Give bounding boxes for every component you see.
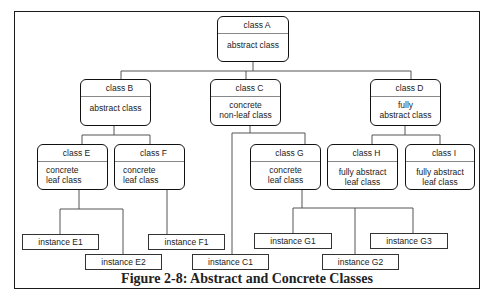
class-d-box: class D fully abstract class <box>370 79 441 126</box>
class-i-box: class I fully abstract leaf class <box>405 144 475 190</box>
class-i-name: class I <box>406 145 474 162</box>
class-c-desc: concrete non-leaf class <box>211 97 280 120</box>
instance-c1-box: instance C1 <box>192 254 269 270</box>
instance-f1-box: instance F1 <box>148 234 225 250</box>
instance-e1-box: instance E1 <box>22 234 99 250</box>
class-f-desc: concrete leaf class <box>115 162 184 185</box>
class-c-box: class C concrete non-leaf class <box>210 79 281 126</box>
class-g-desc: concrete leaf class <box>251 162 320 185</box>
class-h-desc: fully abstract leaf class <box>328 162 397 187</box>
class-f-box: class F concrete leaf class <box>114 144 185 190</box>
class-g-name: class G <box>251 145 320 162</box>
class-e-box: class E concrete leaf class <box>37 144 108 190</box>
class-i-desc: fully abstract leaf class <box>406 162 474 187</box>
class-f-name: class F <box>115 145 184 162</box>
class-d-desc: fully abstract class <box>371 97 440 120</box>
class-h-name: class H <box>328 145 397 162</box>
class-a-box: class A abstract class <box>217 16 289 62</box>
class-hierarchy-diagram: class A abstract class class B abstract … <box>0 0 496 304</box>
class-c-name: class C <box>211 80 280 97</box>
class-b-name: class B <box>81 80 150 97</box>
class-b-box: class B abstract class <box>80 79 151 126</box>
figure-caption: Figure 2-8: Abstract and Concrete Classe… <box>14 271 480 287</box>
class-b-desc: abstract class <box>81 97 150 114</box>
class-e-desc: concrete leaf class <box>38 162 107 185</box>
class-a-desc: abstract class <box>218 34 288 51</box>
class-g-box: class G concrete leaf class <box>250 144 321 190</box>
class-a-name: class A <box>218 17 288 34</box>
class-h-box: class H fully abstract leaf class <box>327 144 398 190</box>
instance-g1-box: instance G1 <box>254 233 332 249</box>
instance-g3-box: instance G3 <box>370 233 448 249</box>
class-e-name: class E <box>38 145 107 162</box>
class-d-name: class D <box>371 80 440 97</box>
instance-g2-box: instance G2 <box>322 254 399 270</box>
instance-e2-box: instance E2 <box>85 254 162 270</box>
